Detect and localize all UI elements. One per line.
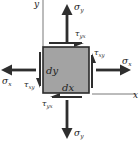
svg-text:τyx: τyx	[42, 99, 54, 110]
x-axis-label: x	[133, 90, 138, 100]
svg-text:σx: σx	[122, 56, 132, 67]
dx-label: dx	[62, 82, 74, 93]
sigma-y-bottom-arrow: σy	[67, 100, 84, 140]
svg-text:τxy: τxy	[94, 48, 106, 59]
stress-element-diagram: y x dy dx σy σy σx σx τyx τyx τxy τxy	[0, 0, 140, 145]
y-axis: y	[33, 0, 43, 47]
x-axis: x	[92, 90, 138, 100]
svg-text:σx: σx	[2, 76, 12, 87]
tau-xy-right-arrow: τxy	[92, 48, 106, 88]
tau-xy-left-arrow: τxy	[24, 52, 40, 91]
svg-text:σy: σy	[74, 2, 84, 14]
svg-text:τyx: τyx	[75, 29, 87, 40]
svg-text:σy: σy	[74, 128, 84, 140]
tau-yx-bottom-arrow: τyx	[42, 97, 82, 110]
y-axis-label: y	[33, 0, 40, 9]
dy-label: dy	[46, 65, 58, 76]
sigma-x-right-arrow: σx	[96, 56, 132, 70]
svg-text:τxy: τxy	[24, 80, 36, 91]
